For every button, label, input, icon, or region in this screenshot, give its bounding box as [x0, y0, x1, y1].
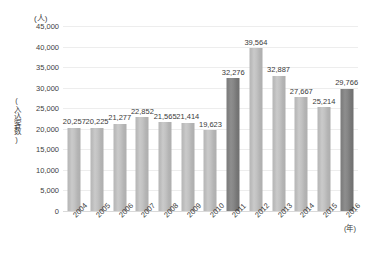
bar[interactable] — [204, 130, 217, 211]
bar-slot: 21,414 — [176, 26, 199, 211]
bar[interactable] — [317, 107, 330, 211]
bar-value-label: 22,852 — [131, 107, 154, 116]
y-axis-tick-label: 15,000 — [13, 145, 59, 154]
bar[interactable] — [91, 128, 104, 211]
bar[interactable] — [136, 117, 149, 211]
bar-slot: 21,565 — [154, 26, 177, 211]
y-axis-tick-label: 30,000 — [13, 83, 59, 92]
y-axis-tick-label: 35,000 — [13, 63, 59, 72]
bar-value-label: 21,414 — [176, 112, 199, 121]
bar-value-label: 21,565 — [154, 112, 177, 121]
bar-value-label: 19,623 — [199, 120, 222, 129]
bar-highlighted[interactable] — [227, 78, 240, 211]
bar-chart: (人) (入込客数) 05,00010,00015,00020,00025,00… — [0, 0, 368, 261]
bar-slot: 22,852 — [131, 26, 154, 211]
bar-value-label: 32,276 — [222, 68, 245, 77]
bar-slot: 32,276 — [222, 26, 245, 211]
bar-slot: 29,766 — [335, 26, 358, 211]
bar-slot: 21,277 — [108, 26, 131, 211]
y-axis-tick-label: 10,000 — [13, 165, 59, 174]
bar-slot: 32,887 — [267, 26, 290, 211]
bar-slot: 39,564 — [245, 26, 268, 211]
bar-value-label: 27,667 — [290, 87, 313, 96]
bar-value-label: 20,257 — [63, 117, 86, 126]
bar[interactable] — [113, 124, 126, 211]
bar[interactable] — [159, 122, 172, 211]
bar[interactable] — [272, 76, 285, 211]
bar-slot: 19,623 — [199, 26, 222, 211]
bar-highlighted[interactable] — [340, 89, 353, 211]
bar-slot: 20,257 — [63, 26, 86, 211]
bar-value-label: 39,564 — [244, 38, 267, 47]
y-axis-tick-label: 0 — [13, 207, 59, 216]
plot-area: 20,25720,22521,27722,85221,56521,41419,6… — [63, 26, 358, 211]
bar[interactable] — [249, 48, 262, 211]
x-axis-tick-labels: 2004200520062007200820092010201120122013… — [63, 213, 358, 253]
bar[interactable] — [295, 97, 308, 211]
bar-value-label: 29,766 — [335, 78, 358, 87]
bar-value-label: 20,225 — [86, 117, 109, 126]
bar-value-label: 32,887 — [267, 65, 290, 74]
bar[interactable] — [68, 128, 81, 211]
y-axis-tick-label: 5,000 — [13, 186, 59, 195]
y-axis-tick-labels: 05,00010,00015,00020,00025,00030,00035,0… — [11, 26, 59, 211]
bar-slot: 27,667 — [290, 26, 313, 211]
y-axis-tick-label: 40,000 — [13, 42, 59, 51]
y-axis-tick-label: 25,000 — [13, 104, 59, 113]
bar-value-label: 21,277 — [108, 113, 131, 122]
bar-slot: 20,225 — [86, 26, 109, 211]
bar[interactable] — [181, 123, 194, 211]
y-axis-tick-label: 20,000 — [13, 124, 59, 133]
x-axis-unit-caption: (年) — [344, 222, 356, 233]
y-axis-tick-label: 45,000 — [13, 22, 59, 31]
bar-value-label: 25,214 — [312, 97, 335, 106]
bar-slot: 25,214 — [313, 26, 336, 211]
